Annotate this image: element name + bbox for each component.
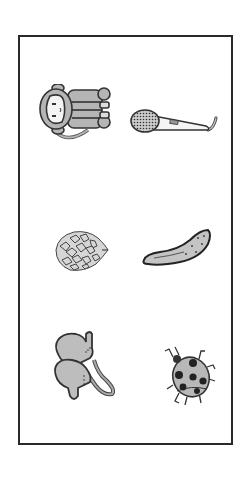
ladybug-picture	[163, 345, 217, 407]
mittens-icon	[50, 330, 126, 402]
microphone-icon	[130, 106, 220, 138]
cucumber-picture	[140, 226, 212, 268]
mittens-picture	[50, 330, 126, 402]
microphone-picture	[130, 106, 220, 138]
pine-cone-picture	[52, 228, 110, 274]
ladybug-icon	[163, 345, 217, 407]
monkey-picture	[38, 84, 113, 146]
pine-cone-icon	[52, 228, 110, 274]
monkey-icon	[38, 84, 113, 146]
cucumber-icon	[140, 226, 212, 268]
